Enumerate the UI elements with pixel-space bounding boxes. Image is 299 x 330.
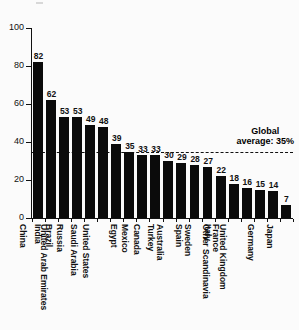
bar-value-label: 53	[73, 107, 82, 116]
bar[interactable]	[111, 144, 121, 218]
bar-value-label: 14	[269, 181, 278, 190]
bar-group[interactable]: 35	[123, 26, 136, 218]
bar-group[interactable]: 62	[45, 26, 58, 218]
bar-group[interactable]: 22	[215, 26, 228, 218]
bar-value-label: 18	[230, 174, 239, 183]
bar[interactable]	[59, 117, 69, 218]
bar-group[interactable]: 15	[254, 26, 267, 218]
x-axis-label: Russia	[55, 224, 64, 252]
bar[interactable]	[163, 161, 173, 218]
x-axis-label-slot: France	[228, 222, 241, 328]
bar[interactable]	[281, 205, 291, 218]
bar-group[interactable]: 53	[71, 26, 84, 218]
x-axis-label: United States	[81, 224, 90, 278]
x-axis-label: Germany	[246, 224, 255, 261]
bar-value-label: 15	[256, 180, 265, 189]
bar[interactable]	[33, 62, 43, 218]
bar-value-label: 39	[112, 134, 121, 143]
bar[interactable]	[46, 100, 56, 218]
bar-value-label: 30	[164, 151, 173, 160]
bar-value-label: 27	[203, 157, 212, 166]
bar[interactable]	[176, 163, 186, 218]
bar-group[interactable]: 16	[241, 26, 254, 218]
bar-group[interactable]: 18	[228, 26, 241, 218]
bar-group[interactable]: 53	[58, 26, 71, 218]
bar-group[interactable]: 82	[32, 26, 45, 218]
bar[interactable]	[216, 176, 226, 218]
bar[interactable]	[85, 125, 95, 218]
bar[interactable]	[203, 167, 213, 218]
x-axis-label: Egypt	[109, 224, 118, 248]
x-axis-label: Japan	[265, 224, 274, 249]
bar[interactable]	[150, 155, 160, 218]
bar-value-label: 29	[177, 153, 186, 162]
bar-group[interactable]: 27	[202, 26, 215, 218]
bar-value-label: 22	[216, 166, 225, 175]
bar[interactable]	[190, 165, 200, 218]
bar-group[interactable]: 7	[280, 26, 293, 218]
x-axis-label: Mexico	[119, 224, 128, 253]
bar[interactable]	[255, 190, 265, 219]
bar-value-label: 33	[151, 145, 160, 154]
bar-group[interactable]: 28	[189, 26, 202, 218]
bar[interactable]	[72, 117, 82, 218]
x-axis-tick	[293, 219, 294, 222]
y-axis-tick-label: 20	[14, 174, 24, 185]
bar-value-label: 53	[60, 107, 69, 116]
bar-value-label: 16	[243, 178, 252, 187]
bar[interactable]	[124, 152, 134, 219]
bar[interactable]	[137, 155, 147, 218]
bar[interactable]	[229, 184, 239, 218]
bar[interactable]	[268, 191, 278, 218]
bar-group[interactable]: 33	[149, 26, 162, 218]
bar-value-label: 7	[284, 195, 289, 204]
bar-group[interactable]: 39	[110, 26, 123, 218]
y-axis-tick-label: 0	[19, 212, 24, 223]
bar-group[interactable]: 14	[267, 26, 280, 218]
x-axis-label: United Arab Emirates	[39, 224, 48, 310]
bar-value-label: 62	[47, 90, 56, 99]
bar-value-label: 82	[34, 52, 43, 61]
x-axis-labels: ChinaIndiaBrazilRussiaUnited Arab Emirat…	[32, 222, 293, 328]
bar-group[interactable]: 30	[163, 26, 176, 218]
x-axis-label: Other Scandinavia	[201, 224, 210, 299]
x-axis-label: Canada	[132, 224, 141, 255]
scan-artifact	[36, 2, 43, 4]
y-axis-tick-label: 60	[14, 98, 24, 109]
bar-value-label: 28	[190, 155, 199, 164]
bar-group[interactable]: 48	[97, 26, 110, 218]
x-axis-label: China	[18, 224, 27, 248]
bar-group[interactable]: 49	[84, 26, 97, 218]
y-axis-tick-label: 40	[14, 136, 24, 147]
x-axis-label: Australia	[155, 224, 164, 260]
y-axis-tick-label: 80	[14, 60, 24, 71]
bar[interactable]	[242, 188, 252, 218]
bar[interactable]	[98, 127, 108, 218]
bar-value-label: 49	[86, 115, 95, 124]
bar-value-label: 48	[99, 117, 108, 126]
x-axis-label: United Kingdom	[219, 224, 228, 290]
bars-layer: 826253534948393533333029282722181615147	[32, 26, 293, 218]
y-axis-tick-label: 100	[9, 22, 24, 33]
x-axis-label-slot: Japan	[280, 222, 293, 328]
bar-value-label: 35	[125, 142, 134, 151]
bar-group[interactable]: 33	[136, 26, 149, 218]
bar-chart: 020406080100 Global average: 35% 8262535…	[0, 0, 299, 330]
x-axis-label: Saudi Arabia	[69, 224, 78, 276]
bar-group[interactable]: 29	[176, 26, 189, 218]
bar-value-label: 33	[138, 145, 147, 154]
x-axis-label: Sweden	[183, 224, 192, 256]
